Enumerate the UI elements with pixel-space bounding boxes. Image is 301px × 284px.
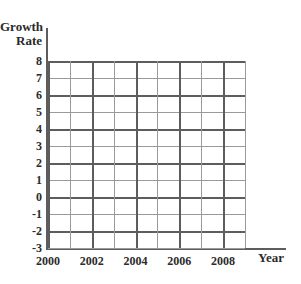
y-axis-title-line-2: Rate <box>0 34 42 48</box>
gridline-horizontal <box>48 61 245 63</box>
gridline-vertical <box>70 61 71 248</box>
gridline-horizontal <box>48 78 245 79</box>
y-tick-label: 3 <box>20 140 42 152</box>
gridline-horizontal <box>48 112 245 113</box>
y-tick-label: 8 <box>20 55 42 67</box>
y-tick-label: 5 <box>20 106 42 118</box>
x-tick-label: 2008 <box>211 254 235 269</box>
y-tick-label: 7 <box>20 72 42 84</box>
gridline-vertical <box>48 61 50 248</box>
y-tick-label: 2 <box>20 157 42 169</box>
x-tick-label: 2006 <box>167 254 191 269</box>
y-tick-label: 0 <box>20 191 42 203</box>
x-tick-label: 2002 <box>80 254 104 269</box>
gridline-horizontal <box>48 214 245 215</box>
y-axis-title: Growth Rate <box>0 20 42 48</box>
plot-area <box>48 61 245 248</box>
y-tick-label: 1 <box>20 174 42 186</box>
gridline-horizontal <box>48 163 245 165</box>
gridline-horizontal <box>48 231 245 233</box>
gridline-vertical <box>245 61 246 248</box>
x-axis-title: Year <box>258 250 284 266</box>
x-tick-label: 2000 <box>36 254 60 269</box>
gridline-vertical <box>92 61 94 248</box>
y-tick-label: -2 <box>20 225 42 237</box>
gridline-vertical <box>114 61 115 248</box>
gridline-horizontal <box>48 146 245 147</box>
y-axis-title-line-1: Growth <box>0 20 42 34</box>
gridline-vertical <box>157 61 158 248</box>
gridline-vertical <box>136 61 138 248</box>
gridline-vertical <box>201 61 202 248</box>
gridline-vertical <box>179 61 181 248</box>
x-tick-label: 2004 <box>124 254 148 269</box>
growth-rate-chart: Growth Rate 876543210-1-2-3 200020022004… <box>0 0 301 284</box>
gridline-horizontal <box>48 180 245 181</box>
gridline-horizontal <box>48 248 245 249</box>
gridline-horizontal <box>48 95 245 97</box>
gridline-vertical <box>223 61 225 248</box>
gridline-horizontal <box>48 129 245 131</box>
y-tick-label: -3 <box>20 242 42 254</box>
y-tick-label: -1 <box>20 208 42 220</box>
y-tick-label: 4 <box>20 123 42 135</box>
y-tick-label: 6 <box>20 89 42 101</box>
gridline-horizontal <box>48 197 245 199</box>
